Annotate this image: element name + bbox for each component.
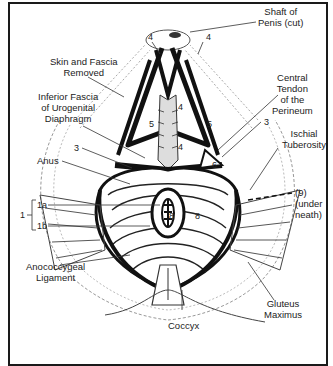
label-line: (9) xyxy=(295,187,322,198)
label-anus: Anus xyxy=(37,155,59,166)
number-4-center-upper: 4 xyxy=(178,102,183,112)
label-line: (under xyxy=(295,198,322,209)
number-3-left: 3 xyxy=(74,143,79,153)
label-shaft-of-penis: Shaft of Penis (cut) xyxy=(258,6,303,28)
label-line: Maximus xyxy=(264,309,302,320)
label-line: neath) xyxy=(295,209,322,220)
label-line: Central xyxy=(272,72,313,83)
number-4-top-right: 4 xyxy=(206,32,211,42)
label-line: Shaft of xyxy=(258,6,303,17)
number-4-top-left: 4 xyxy=(148,32,153,42)
label-ischial-tuberosity: Ischial Tuberosity xyxy=(282,128,326,150)
number-1b: 1b xyxy=(37,221,47,231)
label-line: Ischial xyxy=(282,128,326,139)
label-line: of the xyxy=(272,94,313,105)
label-inferior-fascia: Inferior Fascia of Urogenital Diaphragm xyxy=(38,91,98,124)
number-5-right: 5 xyxy=(207,119,212,129)
number-1: 1 xyxy=(20,210,25,220)
label-under-neath: (9) (under neath) xyxy=(295,187,322,220)
label-line: Diaphragm xyxy=(38,113,98,124)
label-line: Skin and Fascia xyxy=(50,56,118,67)
label-line: Removed xyxy=(50,67,118,78)
number-1a: 1a xyxy=(37,200,47,210)
label-anococcygeal-ligament: Anococcygeal Ligament xyxy=(26,261,85,283)
label-line: Anococcygeal xyxy=(26,261,85,272)
label-line: of Urogenital xyxy=(38,102,98,113)
label-line: Penis (cut) xyxy=(258,17,303,28)
label-skin-fascia-removed: Skin and Fascia Removed xyxy=(50,56,118,78)
label-line: Tendon xyxy=(272,83,313,94)
label-line: Inferior Fascia xyxy=(38,91,98,102)
number-8-right: 8 xyxy=(195,211,200,221)
label-line: Gluteus xyxy=(264,298,302,309)
label-central-tendon: Central Tendon of the Perineum xyxy=(272,72,313,116)
label-gluteus-maximus: Gluteus Maximus xyxy=(264,298,302,320)
number-5-left: 5 xyxy=(149,119,154,129)
number-3-right: 3 xyxy=(264,117,269,127)
label-coccyx: Coccyx xyxy=(168,320,199,331)
number-8-left: 8 xyxy=(169,211,174,221)
label-line: Tuberosity xyxy=(282,139,326,150)
label-line: Ligament xyxy=(26,272,85,283)
number-4-center-lower: 4 xyxy=(178,142,183,152)
number-6: 6 xyxy=(212,160,217,170)
label-line: Perineum xyxy=(272,105,313,116)
